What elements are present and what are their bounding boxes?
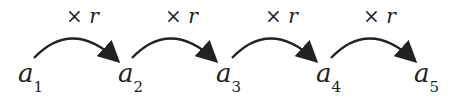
multiply-label: × r: [165, 4, 198, 28]
term-a4: a4: [316, 58, 341, 92]
term-a1: a1: [18, 58, 43, 92]
arrow-icon: [132, 38, 215, 60]
arrow-icon: [331, 38, 414, 60]
multiply-label: × r: [363, 4, 396, 28]
term-a5: a5: [414, 58, 439, 92]
arrow-icon: [232, 38, 315, 60]
arrow-icon: [34, 38, 117, 60]
multiply-label: × r: [265, 4, 298, 28]
term-a2: a2: [118, 58, 143, 92]
term-a3: a3: [216, 58, 241, 92]
multiply-label: × r: [66, 4, 99, 28]
